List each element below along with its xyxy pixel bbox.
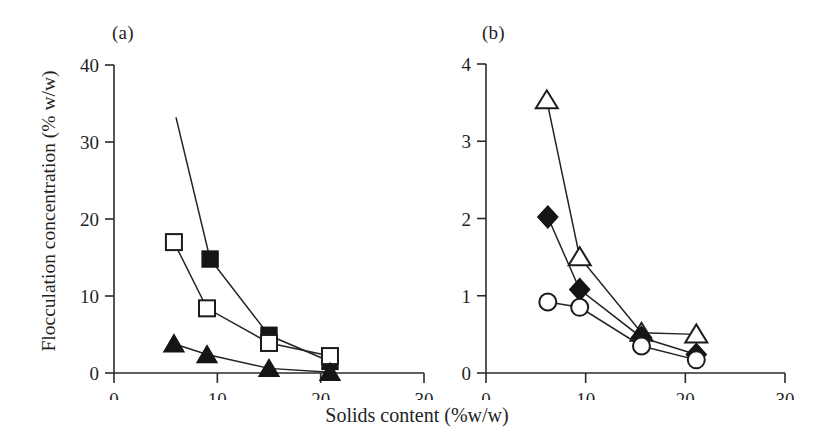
x-axis-title: Solids content (%w/w) xyxy=(0,404,834,427)
y-tick-label: 30 xyxy=(80,132,99,153)
panel-b-plot: 012340102030 xyxy=(420,0,834,400)
y-tick-label: 20 xyxy=(80,209,99,230)
marker-open-triangle xyxy=(569,247,591,265)
marker-open-square xyxy=(261,335,277,351)
panel-a-label: (a) xyxy=(112,22,134,44)
panel-a: (a) 0102030400102030 xyxy=(0,0,440,441)
x-tick-label: 20 xyxy=(311,389,330,400)
marker-open-square xyxy=(199,300,215,316)
series-markers-open-square xyxy=(166,234,338,364)
y-tick-label: 3 xyxy=(462,131,472,152)
x-tick-label: 30 xyxy=(776,389,795,400)
marker-open-circle xyxy=(633,337,650,354)
x-tick-label: 0 xyxy=(481,389,491,400)
marker-filled-diamond xyxy=(538,206,558,228)
marker-open-circle xyxy=(688,351,705,368)
y-tick-label: 10 xyxy=(80,286,99,307)
marker-filled-triangle xyxy=(259,359,279,376)
series-line-filled-square xyxy=(176,117,330,361)
marker-open-circle xyxy=(539,293,556,310)
x-tick-label: 20 xyxy=(676,389,695,400)
panel-b-label: (b) xyxy=(482,22,505,44)
y-tick-label: 2 xyxy=(462,209,472,230)
marker-open-square xyxy=(166,234,182,250)
series-markers-filled-diamond xyxy=(538,206,707,366)
y-tick-label: 0 xyxy=(90,363,100,384)
y-tick-label: 0 xyxy=(462,363,472,384)
y-tick-label: 1 xyxy=(462,286,472,307)
panel-a-plot: 0102030400102030 xyxy=(0,0,440,400)
marker-filled-triangle xyxy=(197,346,217,363)
figure-container: Flocculation concentration (% w/w) (a) 0… xyxy=(0,0,834,441)
marker-filled-triangle xyxy=(164,335,184,352)
y-tick-label: 4 xyxy=(462,54,472,75)
marker-filled-square xyxy=(202,251,218,267)
x-tick-label: 10 xyxy=(208,389,227,400)
y-tick-label: 40 xyxy=(80,55,99,76)
marker-open-triangle xyxy=(536,90,558,108)
x-tick-label: 10 xyxy=(576,389,595,400)
series-line-open-circle xyxy=(548,302,697,360)
marker-open-triangle xyxy=(685,324,707,342)
series-line-open-triangle xyxy=(547,100,696,334)
marker-open-circle xyxy=(571,299,588,316)
panel-b: (b) 012340102030 xyxy=(420,0,834,441)
marker-open-square xyxy=(322,348,338,364)
series-line-filled-triangle xyxy=(174,344,330,372)
x-tick-label: 0 xyxy=(109,389,119,400)
marker-filled-diamond xyxy=(570,279,590,301)
series-line-open-square xyxy=(174,242,330,356)
